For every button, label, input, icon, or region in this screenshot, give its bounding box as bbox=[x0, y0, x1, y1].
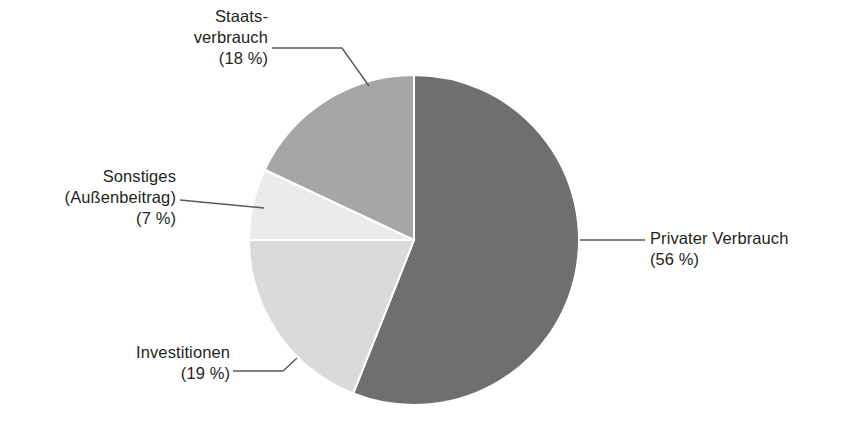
label-sonstiges-line2: (Außenbeitrag) bbox=[65, 188, 176, 206]
pie-chart: Staats- verbrauch (18 %) Sonstiges (Auße… bbox=[0, 0, 841, 435]
leader-line-sonstiges bbox=[180, 200, 264, 208]
label-investitionen: Investitionen (19 %) bbox=[88, 342, 230, 384]
label-privater-verbrauch-line1: Privater Verbrauch bbox=[650, 229, 788, 247]
label-staatsverbrauch-line2: verbrauch bbox=[194, 28, 268, 46]
label-staatsverbrauch-percent: (18 %) bbox=[219, 49, 268, 67]
leader-line-staatsverbrauch bbox=[272, 48, 369, 86]
label-sonstiges-line1: Sonstiges bbox=[103, 167, 176, 185]
label-investitionen-percent: (19 %) bbox=[181, 364, 230, 382]
label-sonstiges-percent: (7 %) bbox=[136, 209, 176, 227]
label-staatsverbrauch: Staats- verbrauch (18 %) bbox=[150, 6, 268, 69]
label-sonstiges: Sonstiges (Außenbeitrag) (7 %) bbox=[14, 166, 176, 229]
leader-line-investitionen bbox=[233, 358, 297, 371]
label-privater-verbrauch: Privater Verbrauch (56 %) bbox=[650, 228, 835, 270]
label-investitionen-line1: Investitionen bbox=[136, 343, 230, 361]
label-staatsverbrauch-line1: Staats- bbox=[215, 7, 268, 25]
label-privater-verbrauch-percent: (56 %) bbox=[650, 250, 699, 268]
